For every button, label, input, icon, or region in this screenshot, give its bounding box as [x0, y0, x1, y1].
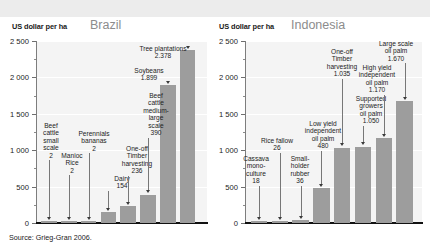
y-tick-label: 500: [6, 183, 29, 192]
y-tick-minor: [34, 59, 37, 60]
callout-arrowhead: [106, 208, 110, 211]
callout-arrowhead: [166, 81, 170, 84]
callout-arrowhead: [299, 216, 303, 219]
bar: [334, 148, 351, 223]
y-tick-minor: [243, 96, 246, 97]
y-tick-minor: [243, 205, 246, 206]
bar: [272, 221, 289, 223]
callout-arrowhead: [403, 97, 407, 100]
callout-leader-line: [342, 79, 343, 144]
bar: [81, 221, 97, 223]
y-tick-major: [241, 150, 245, 151]
y-tick-minor: [243, 132, 246, 133]
y-tick-label: 0: [6, 219, 29, 228]
callout-leader-line: [128, 176, 129, 202]
callout-arrowhead: [319, 184, 323, 187]
bar: [355, 147, 372, 223]
y-tick-major: [241, 41, 245, 42]
y-tick-minor: [34, 168, 37, 169]
callout-leader-line: [69, 175, 70, 217]
callout-leader-line: [89, 153, 90, 217]
y-tick-minor: [243, 59, 246, 60]
callout-leader-line: [301, 186, 302, 216]
y-tick-label: 1 000: [6, 146, 29, 155]
bar: [251, 221, 268, 223]
callout-arrowhead: [126, 202, 130, 205]
y-tick-major: [32, 114, 36, 115]
bar-callout-label: Large scale oil palm 1.670: [370, 40, 422, 62]
y-tick-label: 2 500: [6, 37, 29, 46]
callout-arrowhead: [87, 217, 91, 220]
chart-title-indonesia: Indonesia: [291, 18, 345, 32]
bar-callout-label: High yield independent oil palm 1.170: [352, 64, 402, 94]
bar-callout-label: Beef cattle medium- large scale 390: [139, 92, 173, 136]
y-tick-major: [32, 77, 36, 78]
y-tick-major: [241, 223, 245, 224]
y-tick-minor: [34, 96, 37, 97]
callout-leader-line: [49, 160, 50, 217]
callout-arrowhead: [382, 134, 386, 137]
figure-root: US dollar per ha Brazil 2 5002 0001 5001…: [0, 0, 430, 251]
bar: [292, 220, 309, 223]
callout-leader-line: [148, 138, 149, 191]
callout-leader-line: [321, 151, 322, 184]
bar-callout-label: Manioc Rice 2: [55, 152, 89, 174]
bar-callout-label: Small- holder rubber 36: [283, 155, 317, 185]
callout-arrowhead: [361, 142, 365, 145]
bar: [101, 212, 117, 223]
y-tick-minor: [34, 205, 37, 206]
bar: [120, 206, 136, 223]
callout-leader-line: [384, 95, 385, 134]
callout-arrowhead: [257, 217, 261, 220]
bar-callout-label: Perennials bananas 2: [72, 130, 116, 152]
y-tick-major: [32, 41, 36, 42]
callout-leader-line: [405, 63, 406, 97]
callout-leader-line: [259, 186, 260, 217]
callout-arrowhead: [146, 190, 150, 193]
chart-title-brazil: Brazil: [90, 18, 121, 32]
y-tick-label: 1 000: [213, 146, 238, 155]
bar-callout-label: Supported growers oil palm 1.050: [348, 95, 394, 125]
callout-arrowhead: [186, 46, 190, 49]
chart-panel-brazil: US dollar per ha Brazil 2 5002 0001 5001…: [6, 18, 209, 230]
top-background-band: [0, 0, 430, 17]
y-tick-label: 1 500: [213, 110, 238, 119]
y-tick-major: [32, 223, 36, 224]
callout-arrowhead: [67, 217, 71, 220]
bar: [376, 138, 393, 223]
y-tick-label: 2 000: [6, 73, 29, 82]
y-tick-major: [241, 114, 245, 115]
y-tick-major: [32, 187, 36, 188]
bar: [41, 221, 57, 223]
y-tick-major: [241, 77, 245, 78]
bar-callout-label: Rice fallow 26: [253, 137, 301, 152]
callout-arrowhead: [278, 217, 282, 220]
y-axis-title-indonesia: US dollar per ha: [219, 22, 274, 31]
y-tick-label: 2 500: [213, 37, 238, 46]
callout-leader-line: [280, 153, 281, 217]
bar: [313, 188, 330, 223]
y-axis-title-brazil: US dollar per ha: [12, 22, 67, 31]
bar: [140, 195, 156, 223]
y-tick-label: 2 000: [213, 73, 238, 82]
y-tick-label: 1 500: [6, 110, 29, 119]
y-tick-major: [241, 187, 245, 188]
chart-panel-indonesia: US dollar per ha Indonesia 2 5002 0001 5…: [213, 18, 426, 230]
callout-arrowhead: [340, 143, 344, 146]
bar: [180, 50, 196, 223]
callout-leader-line: [108, 191, 109, 208]
y-tick-label: 500: [213, 183, 238, 192]
bar: [396, 101, 413, 223]
callout-arrowhead: [47, 217, 51, 220]
source-note: Source: Grieg-Gran 2006.: [9, 233, 92, 242]
bar: [61, 221, 77, 223]
bar-callout-label: Cassava mono- culture 18: [237, 155, 275, 185]
bar-callout-label: Dairy 154: [107, 175, 137, 190]
y-tick-label: 0: [213, 219, 238, 228]
bar-callout-label: One-off Timber harvesting 236: [115, 145, 159, 175]
callout-leader-line: [363, 126, 364, 143]
